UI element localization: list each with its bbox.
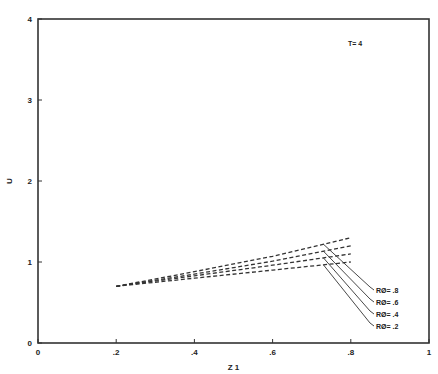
leader-line (323, 251, 374, 302)
x-tick-label: 1 (427, 348, 432, 357)
y-tick-label: 1 (28, 258, 33, 267)
series-label: RØ= .2 (376, 323, 398, 330)
x-tick-label: .6 (269, 348, 276, 357)
annotation-t: T= 4 (348, 40, 362, 47)
series-line (116, 238, 351, 287)
y-tick-label: 2 (28, 177, 33, 186)
y-tick-label: 0 (28, 339, 33, 348)
y-axis-title: U (5, 178, 14, 184)
plot-frame (38, 19, 429, 343)
x-tick-label: 0 (36, 348, 41, 357)
x-tick-label: .4 (191, 348, 198, 357)
series-line (116, 254, 351, 286)
series-label: RØ= .8 (376, 287, 398, 294)
series-label: RØ= .6 (376, 299, 398, 306)
x-axis-title: Z 1 (228, 363, 240, 372)
x-tick-label: .8 (347, 348, 354, 357)
y-tick-label: 3 (28, 96, 33, 105)
leader-line (323, 258, 374, 314)
chart: 0.2.4.6.8101234Z 1UT= 4RØ= .8RØ= .6RØ= .… (0, 0, 438, 374)
series-line (116, 246, 351, 286)
series-line (116, 262, 351, 286)
x-tick-label: .2 (113, 348, 120, 357)
y-tick-label: 4 (28, 15, 33, 24)
series-label: RØ= .4 (376, 311, 398, 318)
